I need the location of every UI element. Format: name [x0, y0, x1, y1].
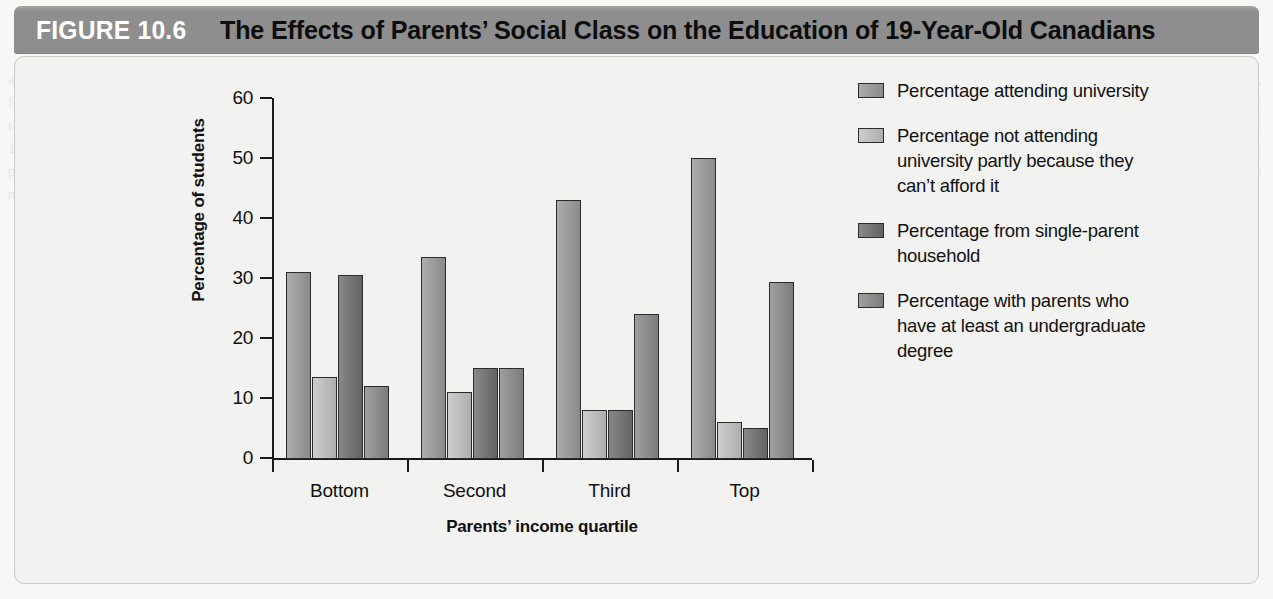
legend-item[interactable]: Percentage with parents who have at leas…	[858, 288, 1188, 363]
bar-chart-plot-area: Percentage of students 0102030405060 Bot…	[175, 60, 1235, 560]
chart-legend: Percentage attending universityPercentag…	[858, 78, 1188, 383]
bar	[691, 158, 716, 459]
x-axis-category-label: Third	[540, 480, 680, 502]
bar	[364, 386, 389, 459]
y-axis-tick	[260, 97, 272, 99]
bar	[312, 377, 337, 459]
legend-item-label: Percentage not attending university part…	[897, 123, 1165, 198]
x-axis-title: Parents’ income quartile	[272, 517, 812, 537]
bar	[286, 272, 311, 459]
x-axis-category-label: Top	[675, 480, 815, 502]
legend-swatch-icon	[858, 128, 884, 143]
legend-item[interactable]: Percentage not attending university part…	[858, 123, 1188, 198]
y-axis-tick-label: 50	[205, 147, 253, 169]
y-axis-tick	[260, 397, 272, 399]
y-axis-tick	[260, 337, 272, 339]
bar	[717, 422, 742, 459]
legend-swatch-icon	[858, 83, 884, 98]
y-axis-tick	[260, 277, 272, 279]
y-axis-tick	[260, 217, 272, 219]
legend-item[interactable]: Percentage from single-parent household	[858, 218, 1188, 268]
x-axis-tick	[407, 460, 409, 472]
bar	[499, 368, 524, 459]
figure-header-band: FIGURE 10.6 The Effects of Parents’ Soci…	[14, 6, 1259, 54]
y-axis-tick-label: 60	[205, 87, 253, 109]
y-axis-tick-label: 20	[205, 327, 253, 349]
legend-item-label: Percentage attending university	[897, 78, 1148, 103]
legend-item[interactable]: Percentage attending university	[858, 78, 1188, 103]
bar	[421, 257, 446, 459]
y-axis-tick	[260, 157, 272, 159]
legend-item-label: Percentage from single-parent household	[897, 218, 1165, 268]
y-axis-tick-label: 0	[205, 447, 253, 469]
y-axis-tick-label: 10	[205, 387, 253, 409]
x-axis-tick	[812, 460, 814, 472]
y-axis-line	[272, 98, 274, 460]
bar	[634, 314, 659, 459]
y-axis-tick-label: 30	[205, 267, 253, 289]
x-axis-category-label: Second	[405, 480, 545, 502]
y-axis-tick	[260, 457, 272, 459]
bar	[447, 392, 472, 459]
bar	[473, 368, 498, 459]
x-axis-tick	[272, 460, 274, 472]
legend-item-label: Percentage with parents who have at leas…	[897, 288, 1165, 363]
y-axis-tick-label: 40	[205, 207, 253, 229]
bar	[608, 410, 633, 459]
bar	[743, 428, 768, 459]
legend-swatch-icon	[858, 223, 884, 238]
bar	[338, 275, 363, 459]
x-axis-tick	[677, 460, 679, 472]
legend-swatch-icon	[858, 293, 884, 308]
bar	[556, 200, 581, 459]
figure-title: The Effects of Parents’ Social Class on …	[220, 15, 1155, 46]
figure-number-label: FIGURE 10.6	[36, 15, 186, 46]
x-axis-category-label: Bottom	[270, 480, 410, 502]
bar	[582, 410, 607, 459]
bar	[769, 282, 794, 459]
x-axis-tick	[542, 460, 544, 472]
